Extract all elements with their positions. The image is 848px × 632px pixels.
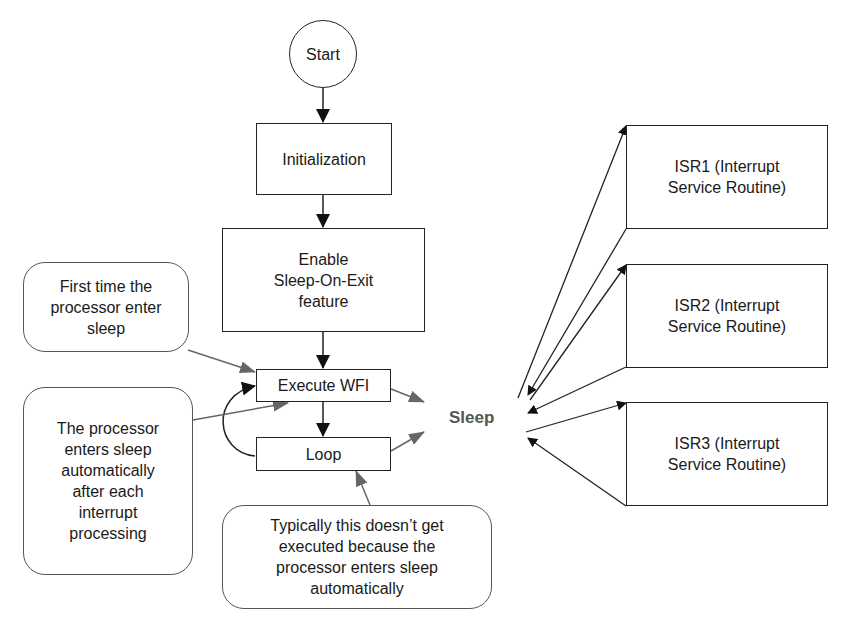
start-node: Start [289, 20, 357, 88]
note-line: interrupt [79, 502, 138, 523]
isr3-line-2: Service Routine) [668, 454, 786, 475]
note-auto-sleep: The processor enters sleep automatically… [23, 387, 193, 575]
execute-wfi-box: Execute WFI [256, 369, 391, 402]
note-line: sleep [87, 318, 125, 339]
start-label: Start [306, 44, 340, 65]
isr2-box: ISR2 (Interrupt Service Routine) [626, 264, 828, 368]
isr3-line-1: ISR3 (Interrupt [675, 433, 780, 454]
note-line: The processor [57, 418, 159, 439]
note-line: processor enter [50, 297, 161, 318]
note-first-time-sleep: First time the processor enter sleep [23, 262, 189, 352]
note-line: automatically [61, 460, 154, 481]
note-line: executed because the [279, 536, 436, 557]
initialization-label: Initialization [282, 149, 366, 170]
initialization-box: Initialization [256, 123, 392, 195]
note-line: Typically this doesn’t get [270, 515, 443, 536]
sleep-label: Sleep [449, 408, 494, 428]
enable-line-3: feature [299, 291, 349, 312]
enable-line-2: Sleep-On-Exit [274, 270, 374, 291]
enable-sleep-on-exit-box: Enable Sleep-On-Exit feature [222, 228, 425, 332]
note-line: processor enters sleep [276, 557, 438, 578]
note-line: after each [72, 481, 143, 502]
note-line: processing [69, 523, 146, 544]
execute-wfi-label: Execute WFI [278, 375, 370, 396]
isr1-box: ISR1 (Interrupt Service Routine) [626, 125, 828, 229]
loop-box: Loop [256, 437, 391, 471]
enable-line-1: Enable [299, 249, 349, 270]
note-line: First time the [60, 276, 152, 297]
isr3-box: ISR3 (Interrupt Service Routine) [626, 402, 828, 506]
note-loop-not-executed: Typically this doesn’t get executed beca… [222, 505, 492, 609]
loop-label: Loop [306, 444, 342, 465]
isr1-line-2: Service Routine) [668, 177, 786, 198]
note-line: enters sleep [64, 439, 151, 460]
isr2-line-1: ISR2 (Interrupt [675, 295, 780, 316]
isr1-line-1: ISR1 (Interrupt [675, 156, 780, 177]
note-line: automatically [310, 578, 403, 599]
isr2-line-2: Service Routine) [668, 316, 786, 337]
